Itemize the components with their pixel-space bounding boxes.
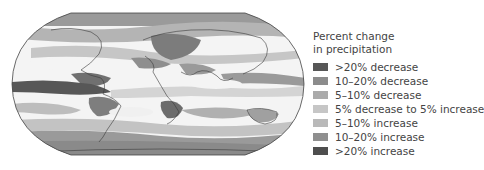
legend-item: 5–10% increase [313,116,483,130]
legend-item: 10–20% decrease [313,74,483,88]
map-svg [11,12,305,156]
legend-item: 5% decrease to 5% increase [313,102,483,116]
legend-title-line2: in precipitation [313,43,483,56]
legend-label: 5–10% decrease [335,89,421,101]
legend-item: >20% decrease [313,60,483,74]
legend-label: 10–20% decrease [335,75,428,87]
legend-swatch [313,133,328,141]
legend-item: 10–20% increase [313,130,483,144]
legend-label: 5% decrease to 5% increase [335,103,484,115]
legend-swatch [313,77,328,85]
map-fill [11,12,305,156]
legend-item: 5–10% decrease [313,88,483,102]
legend-swatch [313,105,328,113]
legend-label: 10–20% increase [335,131,425,143]
legend-swatch [313,119,328,127]
legend-swatch [313,147,328,155]
precipitation-world-map [11,12,305,156]
legend-title: Percent change in precipitation [313,30,483,56]
legend: Percent change in precipitation >20% dec… [313,30,483,158]
legend-swatch [313,63,328,71]
legend-title-line1: Percent change [313,30,483,43]
legend-item: >20% increase [313,144,483,158]
legend-label: >20% increase [335,145,415,157]
legend-label: 5–10% increase [335,117,418,129]
legend-swatch [313,91,328,99]
legend-label: >20% decrease [335,61,418,73]
